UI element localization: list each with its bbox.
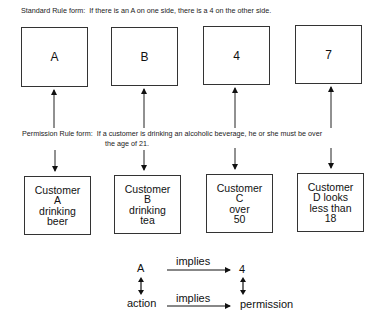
mapping-a-label: A bbox=[137, 262, 144, 274]
mapping-4-label: 4 bbox=[239, 263, 245, 275]
mapping-permission-label: permission bbox=[240, 298, 293, 310]
double-arrow-icon bbox=[138, 277, 144, 295]
mapping-implies-bottom-label: implies bbox=[176, 292, 210, 304]
arrows-layer bbox=[0, 0, 382, 326]
mapping-implies-top-label: implies bbox=[176, 255, 210, 267]
double-arrow-icon bbox=[240, 277, 246, 295]
mapping-action-label: action bbox=[127, 297, 156, 309]
